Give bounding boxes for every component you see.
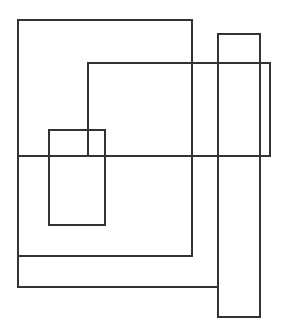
diagram-canvas [0, 0, 283, 331]
rect-wide-middle [87, 62, 271, 157]
rect-bottom-left [17, 155, 219, 288]
